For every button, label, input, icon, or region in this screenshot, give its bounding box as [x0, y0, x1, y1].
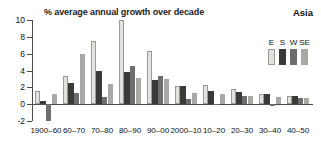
bar-s	[236, 92, 241, 104]
y-tick-mark	[27, 104, 32, 105]
bar-e	[203, 85, 208, 104]
legend-swatch-w	[290, 49, 297, 65]
y-tick-label: 8	[20, 32, 25, 42]
bar-se	[220, 94, 225, 105]
bar-group	[91, 20, 114, 121]
legend-swatch-e	[268, 49, 275, 65]
x-tick-label: 70–80	[91, 126, 113, 135]
bar-se	[248, 96, 253, 104]
x-tick-label: 10–20	[203, 126, 225, 135]
x-axis-labels: 1900–6060–7070–8080–9090–002000–1010–202…	[32, 126, 313, 140]
bar-w	[186, 99, 191, 104]
bar-s	[124, 72, 129, 104]
x-tick-label: 2000–10	[170, 126, 201, 135]
bar-groups	[33, 20, 313, 121]
x-tick-label: 20–30	[231, 126, 253, 135]
bar-w	[242, 96, 247, 104]
bar-w	[270, 104, 275, 106]
bar-group	[175, 20, 198, 121]
bar-s	[68, 83, 73, 104]
y-tick-mark	[27, 121, 32, 122]
bar-group	[231, 20, 254, 121]
bar-group	[63, 20, 86, 121]
y-tick-label: 4	[20, 66, 25, 76]
bar-e	[231, 89, 236, 104]
y-tick-mark	[27, 87, 32, 88]
legend-swatches	[268, 49, 314, 65]
region-title: Asia	[293, 7, 313, 18]
legend-label-w: W	[290, 38, 298, 47]
chart-title: % average annual growth over decade	[44, 7, 204, 17]
y-tick-mark	[27, 20, 32, 21]
legend-label-s: S	[280, 38, 285, 47]
bar-se	[164, 79, 169, 104]
bar-e	[259, 94, 264, 105]
bar-se	[136, 78, 141, 104]
bar-e	[175, 86, 180, 104]
legend-label-se: SE	[299, 38, 310, 47]
x-tick-label: 90–00	[147, 126, 169, 135]
x-tick-label: 80–90	[119, 126, 141, 135]
y-tick-mark	[27, 71, 32, 72]
bar-e	[119, 20, 124, 104]
legend-swatch-se	[301, 49, 308, 65]
bar-se	[276, 97, 281, 104]
legend: ESWSE	[268, 38, 314, 66]
y-tick-label: 10	[16, 15, 25, 25]
bar-group	[203, 20, 226, 121]
bar-s	[96, 71, 101, 105]
bar-e	[287, 96, 292, 104]
y-tick-label: -2	[17, 116, 25, 126]
x-tick-label: 60–70	[63, 126, 85, 135]
y-tick-label: 2	[20, 82, 25, 92]
bar-se	[80, 54, 85, 104]
x-tick-label: 30–40	[259, 126, 281, 135]
bar-s	[292, 96, 297, 104]
bar-s	[208, 91, 213, 104]
bar-w	[46, 104, 51, 121]
legend-labels: ESWSE	[268, 38, 314, 48]
y-tick-mark	[27, 37, 32, 38]
y-tick-mark	[27, 54, 32, 55]
bar-se	[304, 98, 309, 104]
bar-w	[214, 104, 219, 105]
bar-w	[130, 66, 135, 104]
bar-group	[287, 20, 310, 121]
legend-label-e: E	[269, 38, 274, 47]
bar-e	[35, 91, 40, 104]
bar-group	[35, 20, 58, 121]
bar-w	[74, 93, 79, 104]
x-tick-label: 1900–60	[30, 126, 61, 135]
bar-s	[152, 80, 157, 104]
bar-s	[264, 94, 269, 104]
x-tick-label: 40–50	[287, 126, 309, 135]
bar-e	[91, 41, 96, 104]
plot-area: 1086420-2	[32, 20, 313, 121]
bar-se	[52, 94, 57, 105]
bar-s	[40, 101, 45, 104]
y-tick-label: 6	[20, 49, 25, 59]
bar-group	[147, 20, 170, 121]
bar-e	[147, 51, 152, 104]
bar-se	[192, 93, 197, 104]
bar-se	[108, 84, 113, 104]
legend-swatch-s	[279, 49, 286, 65]
bar-group	[119, 20, 142, 121]
bar-group	[259, 20, 282, 121]
y-tick-label: 0	[20, 99, 25, 109]
bar-w	[158, 76, 163, 104]
bar-s	[180, 86, 185, 104]
bar-w	[298, 98, 303, 104]
bar-w	[102, 97, 107, 105]
bar-e	[63, 76, 68, 104]
bar-chart: % average annual growth over decade Asia…	[0, 0, 321, 146]
